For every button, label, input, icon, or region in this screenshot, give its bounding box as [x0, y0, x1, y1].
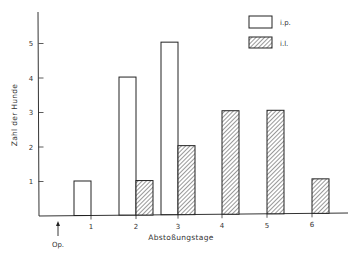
x-tick-label: 4	[220, 222, 225, 230]
bars	[74, 42, 329, 215]
legend: i.p. i.l.	[249, 16, 291, 48]
bar-ip-day-1	[74, 181, 91, 216]
bar-ip-day-3	[161, 42, 178, 215]
y-tick-label: 4	[29, 75, 34, 83]
x-tick-label: 2	[134, 223, 138, 231]
bar-ip-day-2	[119, 77, 136, 215]
y-tick-label: 3	[29, 109, 33, 117]
y-axis	[38, 12, 39, 216]
legend-swatch-hatched	[249, 37, 272, 48]
bar-il-day-2	[136, 181, 153, 216]
y-tick-label: 2	[29, 144, 33, 152]
x-axis-title: Abstoßungstage	[148, 233, 213, 242]
y-axis-title: Zahl der Hunde	[10, 84, 19, 147]
x-ticks: 123456	[89, 213, 315, 231]
y-ticks: 12345	[29, 40, 44, 186]
y-tick-label: 1	[29, 178, 33, 186]
legend-swatch-open	[249, 16, 272, 28]
legend-label-ip: i.p.	[280, 19, 291, 27]
op-label: Op.	[52, 241, 64, 249]
op-marker: Op.	[52, 221, 64, 249]
x-tick-label: 6	[310, 221, 315, 229]
x-tick-label: 3	[176, 223, 180, 231]
y-tick-label: 5	[29, 40, 33, 48]
bar-il-day-5	[267, 110, 284, 214]
bar-il-day-4	[222, 111, 239, 215]
bar-il-day-3	[178, 146, 195, 215]
bar-il-day-6	[312, 179, 329, 214]
x-tick-label: 5	[265, 222, 269, 230]
x-tick-label: 1	[89, 223, 93, 231]
bar-chart: 12345 123456 Zahl der Hunde Abstoßungsta…	[0, 0, 362, 258]
legend-label-il: i.l.	[280, 40, 288, 48]
